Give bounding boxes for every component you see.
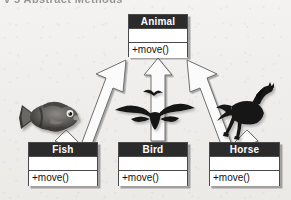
class-box-animal[interactable]: Animal +move() xyxy=(128,14,188,57)
class-box-fish[interactable]: Fish +move() xyxy=(28,142,98,186)
class-name-animal: Animal xyxy=(129,15,187,29)
attributes-compartment-bird xyxy=(119,157,187,171)
class-name-horse: Horse xyxy=(210,143,279,157)
horse-clipart xyxy=(212,82,276,142)
attributes-compartment-animal xyxy=(129,29,187,43)
fish-clipart xyxy=(18,96,84,140)
operation-fish-move: +move() xyxy=(29,171,97,186)
class-box-horse[interactable]: Horse +move() xyxy=(209,142,280,186)
attributes-compartment-horse xyxy=(210,157,279,171)
operation-animal-move: +move() xyxy=(129,43,187,58)
operation-horse-move: +move() xyxy=(210,171,279,186)
operation-bird-move: +move() xyxy=(119,171,187,186)
class-name-bird: Bird xyxy=(119,143,187,157)
attributes-compartment-fish xyxy=(29,157,97,171)
diagram-canvas: v 5 Abstract Methods xyxy=(0,0,291,200)
class-name-fish: Fish xyxy=(29,143,97,157)
bird-clipart xyxy=(113,86,197,136)
class-box-bird[interactable]: Bird +move() xyxy=(118,142,188,186)
